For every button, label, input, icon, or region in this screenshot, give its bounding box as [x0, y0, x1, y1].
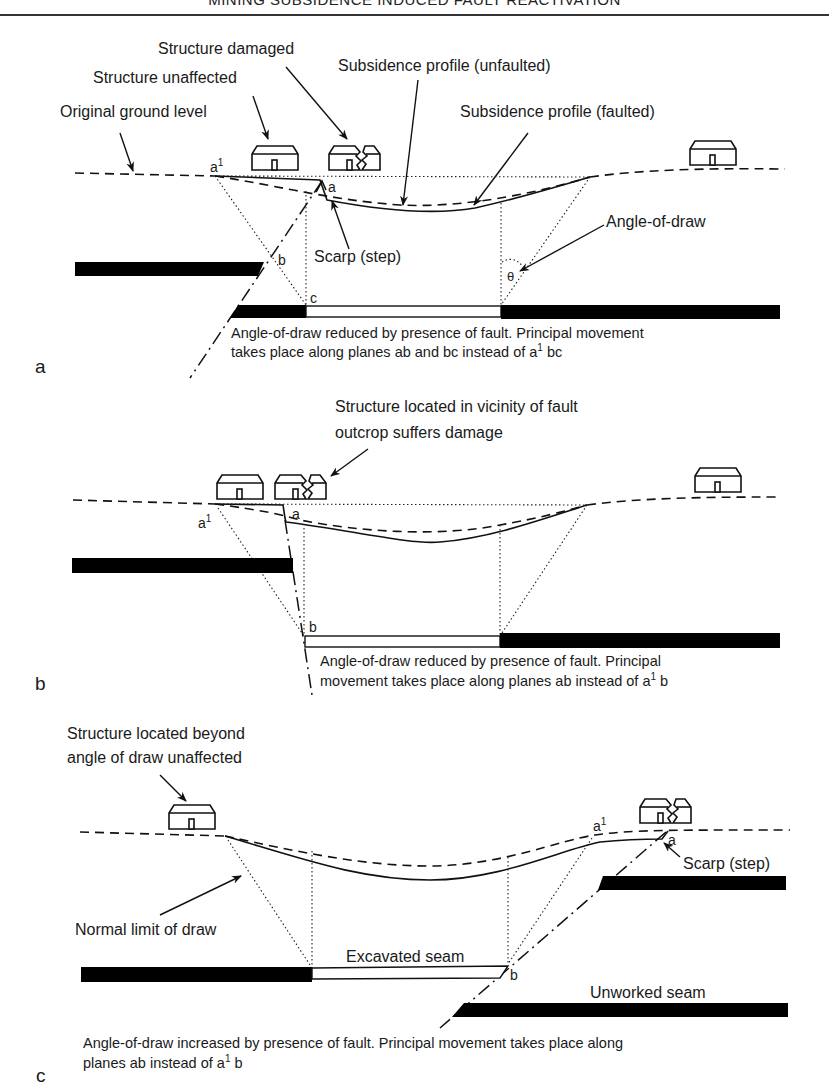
fault-line-b	[285, 520, 312, 695]
arrow-unfaulted	[403, 80, 418, 205]
seam-right-a	[501, 305, 780, 319]
arrow-beyond	[160, 775, 186, 801]
seam-c-left	[81, 967, 312, 982]
label-structure-vicinity-2: outcrop suffers damage	[335, 424, 503, 441]
arrow-angle-of-draw	[520, 225, 604, 271]
profile-c-faulted	[225, 831, 668, 880]
panel-label-c: c	[36, 1065, 46, 1086]
profile-faulted	[215, 176, 590, 211]
arrow-scarp	[332, 201, 349, 249]
arrow-damaged	[286, 67, 347, 139]
point-b: b	[278, 252, 286, 268]
draw-line-c-normal	[228, 840, 312, 968]
arrow-unaffected	[253, 96, 268, 139]
theta-arc	[502, 259, 522, 266]
house-c-damaged-icon	[640, 799, 691, 823]
point-c-a1: a1	[593, 816, 607, 834]
caption-b-line2: movement takes place along planes ab ins…	[320, 671, 668, 689]
ground-b-left	[73, 500, 215, 504]
label-subsidence-faulted: Subsidence profile (faulted)	[460, 103, 655, 120]
panel-c: Structure located beyond angle of draw u…	[36, 725, 790, 1086]
house-far-icon	[690, 141, 736, 165]
ground-c-left	[80, 832, 225, 836]
arrow-normal-limit	[160, 876, 241, 915]
caption-c-line2: planes ab instead of a1 b	[83, 1053, 243, 1071]
fault-reactivation-figure: Structure damaged Structure unaffected S…	[0, 0, 829, 1092]
seam-b-left	[72, 558, 293, 573]
point-a: a	[328, 179, 336, 195]
house-b-damaged-icon	[275, 475, 326, 499]
original-ground-left	[75, 173, 215, 176]
label-structure-vicinity-1: Structure located in vicinity of fault	[335, 398, 578, 415]
panel-b: Structure located in vicinity of fault o…	[35, 398, 780, 695]
house-damaged-icon	[329, 146, 380, 170]
point-c-b: b	[510, 967, 518, 983]
original-ground-right	[590, 169, 785, 177]
point-c: c	[310, 290, 317, 306]
label-angle-of-draw: Angle-of-draw	[606, 213, 706, 230]
label-structure-unaffected: Structure unaffected	[93, 69, 237, 86]
house-c-left-icon	[169, 805, 215, 829]
label-scarp-a: Scarp (step)	[314, 248, 401, 265]
caption-c-line1: Angle-of-draw increased by presence of f…	[83, 1035, 623, 1051]
unworked-seam	[452, 1003, 788, 1017]
pre-mining-surface	[215, 176, 590, 177]
excavated-seam-a	[306, 306, 501, 317]
house-unaffected-icon	[252, 146, 298, 170]
excavated-seam-c	[312, 966, 508, 979]
seam-b-right	[500, 633, 780, 648]
label-excavated-seam: Excavated seam	[346, 948, 464, 965]
house-b-far-icon	[695, 468, 741, 492]
caption-a-line2: takes place along planes ab and bc inste…	[231, 342, 562, 360]
point-b-b: b	[309, 619, 317, 635]
label-unworked-seam: Unworked seam	[590, 984, 706, 1001]
label-structure-beyond-1: Structure located beyond	[67, 725, 245, 742]
caption-b-line1: Angle-of-draw reduced by presence of fau…	[320, 653, 661, 669]
draw-line-b-right	[500, 505, 587, 636]
panel-a: Structure damaged Structure unaffected S…	[35, 40, 785, 378]
label-structure-damaged: Structure damaged	[158, 40, 294, 57]
caption-a-line1: Angle-of-draw reduced by presence of fau…	[231, 325, 644, 341]
theta-symbol: θ	[507, 269, 514, 284]
seam-downthrown-left	[230, 305, 306, 318]
point-b-a1: a1	[198, 513, 212, 531]
profile-unfaulted	[215, 176, 590, 205]
excavated-seam-b	[305, 636, 500, 647]
draw-line-a1-c	[215, 176, 306, 305]
label-structure-beyond-2: angle of draw unaffected	[67, 749, 242, 766]
house-b-left-icon	[217, 475, 263, 499]
point-c-a: a	[668, 832, 676, 848]
panel-label-a: a	[35, 356, 46, 377]
label-normal-limit: Normal limit of draw	[75, 921, 217, 938]
label-original-ground-level: Original ground level	[60, 103, 207, 120]
point-b-a: a	[292, 506, 300, 522]
label-scarp-c: Scarp (step)	[683, 855, 770, 872]
panel-label-b: b	[35, 673, 46, 694]
point-a1: a1	[210, 157, 224, 175]
seam-c-upper-right	[598, 876, 786, 890]
arrow-ground-level	[120, 133, 133, 171]
profile-b-faulted	[215, 504, 587, 542]
ground-b-right	[587, 497, 780, 505]
arrow-vicinity	[331, 449, 368, 476]
seam-upthrown	[75, 262, 264, 276]
label-subsidence-unfaulted: Subsidence profile (unfaulted)	[338, 57, 551, 74]
profile-b-unfaulted	[215, 504, 587, 532]
